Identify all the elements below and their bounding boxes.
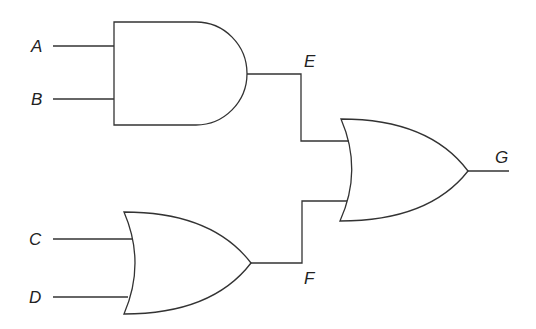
label-f: F [304,270,314,287]
circuit-drawing [0,0,536,329]
logic-circuit-diagram: A B C D E F G [0,0,536,329]
or-gate-ef [340,119,468,221]
label-g: G [495,149,508,166]
wire-e [247,74,349,141]
or-gate-cd [124,212,251,314]
label-a: A [31,38,42,55]
label-c: C [29,231,41,248]
and-gate [114,22,247,125]
label-d: D [29,289,41,306]
label-e: E [304,53,315,70]
label-b: B [31,91,42,108]
wire-f [251,201,347,263]
